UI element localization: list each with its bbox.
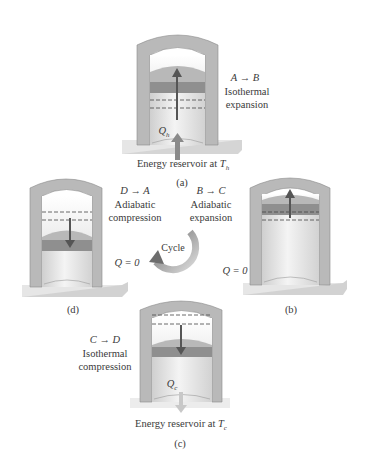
heat-label-a: Qh — [155, 125, 173, 141]
reservoir-a: Energy reservoir at Th — [120, 158, 246, 174]
process-c: C → D — [85, 334, 125, 346]
process-a: A → B — [225, 72, 265, 84]
type-a-line1: Isothermal — [220, 86, 274, 98]
carnot-diagram — [0, 0, 367, 461]
type-d-line2: compression — [104, 212, 166, 224]
cycle-label: Cycle — [155, 242, 191, 254]
panel-tag-d: (d) — [61, 304, 85, 316]
process-d: D → A — [115, 185, 155, 197]
cylinder-b — [243, 178, 347, 295]
heat-label-c: Qc — [163, 378, 181, 394]
process-b: B → C — [191, 185, 231, 197]
heat-label-d: Q = 0 — [112, 257, 142, 269]
type-d-line1: Adiabatic — [108, 199, 162, 211]
reservoir-c: Energy reservoir at Tc — [118, 418, 244, 434]
panel-tag-b: (b) — [279, 304, 303, 316]
type-a-line2: expansion — [220, 99, 274, 111]
panel-tag-c: (c) — [168, 438, 192, 450]
cylinder-c — [130, 301, 230, 413]
cylinder-d — [22, 179, 128, 297]
type-c-line2: compression — [74, 361, 136, 373]
type-b-line1: Adiabatic — [184, 199, 238, 211]
type-c-line1: Isothermal — [78, 348, 132, 360]
heat-label-b: Q = 0 — [220, 265, 250, 277]
type-b-line2: expansion — [184, 212, 238, 224]
